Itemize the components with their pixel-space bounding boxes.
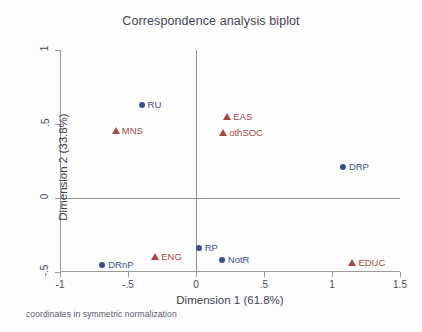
x-tick-label: 1.5 bbox=[393, 279, 407, 290]
x-tick-label: 0 bbox=[193, 279, 199, 290]
x-tick-label: .5 bbox=[260, 279, 268, 290]
chart-title: Correspondence analysis biplot bbox=[0, 14, 422, 28]
zero-line-vertical bbox=[196, 50, 197, 272]
x-tick-label: 1 bbox=[329, 279, 335, 290]
circle-marker-icon bbox=[196, 245, 202, 251]
y-tick-label: 0 bbox=[38, 191, 52, 202]
data-point-label: EAS bbox=[233, 111, 252, 122]
x-tick bbox=[264, 272, 265, 277]
x-tick-label: -1 bbox=[56, 279, 65, 290]
triangle-marker-icon bbox=[112, 127, 120, 134]
data-point-label: ENG bbox=[161, 251, 182, 262]
y-tick-label: .5 bbox=[38, 117, 52, 128]
data-point-label: RP bbox=[205, 242, 218, 253]
y-tick-label: 1 bbox=[38, 43, 52, 54]
data-point-label: DRnP bbox=[108, 259, 133, 270]
x-tick bbox=[332, 272, 333, 277]
data-point-label: EDUC bbox=[358, 257, 385, 268]
triangle-marker-icon bbox=[223, 113, 231, 120]
data-point-label: DRP bbox=[349, 161, 369, 172]
y-axis-label: Dimension 2 (33.8%) bbox=[57, 56, 69, 278]
circle-marker-icon bbox=[99, 262, 105, 268]
plot-area: RUDRPRPNotRDRnPEASothSOCMNSENGEDUC bbox=[60, 50, 400, 272]
circle-marker-icon bbox=[139, 102, 145, 108]
circle-marker-icon bbox=[219, 257, 225, 263]
correspondence-biplot-figure: Correspondence analysis biplot RUDRPRPNo… bbox=[0, 0, 422, 332]
triangle-marker-icon bbox=[219, 129, 227, 136]
zero-line-horizontal bbox=[60, 198, 400, 199]
x-tick bbox=[128, 272, 129, 277]
chart-footnote: coordinates in symmetric normalization bbox=[26, 309, 177, 319]
data-point-label: MNS bbox=[122, 125, 143, 136]
triangle-marker-icon bbox=[348, 259, 356, 266]
y-tick-label: -.5 bbox=[38, 265, 52, 276]
x-tick bbox=[196, 272, 197, 277]
x-tick-label: -.5 bbox=[122, 279, 134, 290]
data-point-label: NotR bbox=[228, 254, 250, 265]
x-axis-label: Dimension 1 (61.8%) bbox=[60, 294, 400, 306]
data-point-label: RU bbox=[148, 99, 162, 110]
y-tick bbox=[55, 50, 60, 51]
triangle-marker-icon bbox=[151, 253, 159, 260]
circle-marker-icon bbox=[340, 164, 346, 170]
x-tick bbox=[400, 272, 401, 277]
data-point-label: othSOC bbox=[229, 127, 263, 138]
